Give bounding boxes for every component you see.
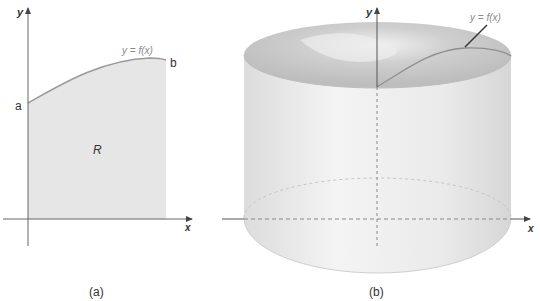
endpoint-a-label: a	[15, 99, 22, 113]
region-label: R	[93, 143, 102, 157]
y-axis-label: y	[16, 6, 24, 18]
panel-b: y x y = f(x) (b)	[222, 6, 534, 299]
curve-label-b: y = f(x)	[469, 12, 501, 23]
x-axis-label-b: x	[527, 223, 534, 234]
caption-a: (a)	[89, 285, 104, 299]
endpoint-b-label: b	[170, 56, 177, 70]
curve-label: y = f(x)	[121, 45, 153, 56]
y-axis-label-b: y	[365, 6, 373, 18]
figure: y x y = f(x) a b R (a) y x y = f(x) (b)	[0, 0, 540, 301]
x-axis-label: x	[184, 222, 191, 233]
region-r	[28, 58, 166, 219]
panel-a: y x y = f(x) a b R (a)	[3, 6, 192, 299]
caption-b: (b)	[369, 285, 384, 299]
